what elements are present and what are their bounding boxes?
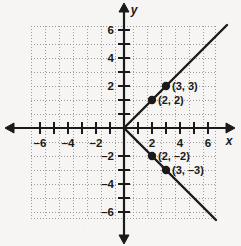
point-marker-3-3 [162, 82, 170, 90]
y-tick-label--4: –4 [101, 178, 114, 190]
x-axis-arrow-left [5, 123, 14, 133]
point-label-3-3: (3, 3) [172, 80, 198, 92]
y-tick-label--2: –2 [101, 150, 114, 162]
y-tick-label-2: 2 [108, 80, 114, 92]
point-label-2-2: (2, 2) [158, 94, 184, 106]
coordinate-plane-graph: –6 –4 –2 2 4 6 6 4 2 –2 –4 –6 x y [0, 0, 241, 246]
x-tick-label-4: 4 [177, 137, 184, 149]
line-y-equals-x [124, 25, 227, 128]
x-axis-label: x [225, 134, 234, 148]
y-axis-arrow-down [119, 235, 129, 244]
y-tick-label-4: 4 [108, 52, 115, 64]
y-axis-tick-labels: 6 4 2 –2 –4 –6 [101, 24, 114, 218]
y-axis-label: y [130, 3, 139, 17]
graph-canvas: –6 –4 –2 2 4 6 6 4 2 –2 –4 –6 x y [0, 0, 241, 246]
y-tick-label--6: –6 [101, 206, 114, 218]
x-tick-label--6: –6 [34, 137, 47, 149]
point-label-2-neg2: (2, –2) [158, 150, 190, 162]
x-axis-arrow-right [226, 123, 235, 133]
point-marker-2-neg2 [148, 152, 156, 160]
x-tick-label-2: 2 [149, 137, 155, 149]
point-marker-2-2 [148, 96, 156, 104]
point-marker-3-neg3 [162, 166, 170, 174]
y-axis-arrow-up [119, 3, 129, 12]
point-label-3-neg3: (3, –3) [172, 164, 204, 176]
y-tick-label-6: 6 [108, 24, 114, 36]
x-tick-label--2: –2 [90, 137, 103, 149]
x-axis-tick-labels: –6 –4 –2 2 4 6 [34, 137, 212, 149]
x-tick-label-6: 6 [205, 137, 211, 149]
x-tick-label--4: –4 [62, 137, 75, 149]
